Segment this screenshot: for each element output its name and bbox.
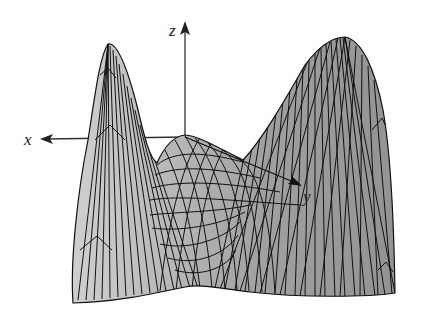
x-axis-label: x: [23, 130, 32, 149]
z-axis-label: z: [168, 21, 176, 40]
z-axis: [180, 21, 190, 135]
y-axis-label: y: [301, 187, 311, 206]
surface: [72, 37, 395, 303]
surface-plot: x z y: [0, 0, 427, 314]
